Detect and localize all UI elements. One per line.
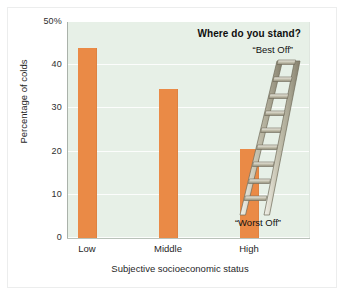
annotation-title: Where do you stand? — [197, 28, 301, 39]
x-axis-line — [67, 238, 310, 239]
x-tick-label-high: High — [214, 243, 284, 254]
y-axis-title: Percentage of colds — [18, 37, 29, 167]
bar-low — [78, 48, 97, 238]
x-tick-label-middle: Middle — [133, 243, 203, 254]
label-best-off: “Best Off” — [253, 44, 293, 55]
label-worst-off: “Worst Off” — [235, 217, 281, 228]
ladder-icon — [238, 58, 308, 218]
figure-card: Where do you stand? “Best Off” “Worst Of… — [0, 0, 344, 295]
y-tick-label-0: 0 — [22, 232, 62, 242]
y-tick-label-50: 50% — [22, 16, 62, 26]
x-tick-label-low: Low — [52, 243, 122, 254]
y-axis-line — [67, 22, 68, 239]
plot-area: Where do you stand? “Best Off” “Worst Of… — [67, 22, 310, 238]
x-axis-title: Subjective socioeconomic status — [40, 263, 320, 274]
bar-middle — [159, 89, 178, 238]
y-tick-label-10: 10 — [22, 189, 62, 199]
